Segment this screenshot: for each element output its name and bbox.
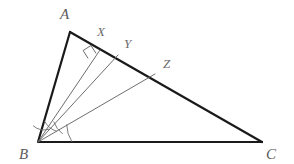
angle-arc-zbc (67, 124, 72, 142)
geometry-figure: A B C X Y Z (0, 0, 294, 164)
triangle-outline (38, 32, 262, 142)
point-label-y: Y (124, 36, 133, 51)
cevians-from-b (38, 50, 155, 142)
vertex-label-a: A (59, 6, 70, 22)
point-label-x: X (96, 24, 106, 39)
side-ab (38, 32, 70, 142)
cevian-bx (38, 50, 100, 142)
vertex-label-b: B (19, 146, 28, 162)
right-angle-at-x (83, 46, 96, 59)
side-ac (70, 32, 262, 142)
right-angle-square (83, 46, 96, 59)
vertex-label-c: C (266, 146, 277, 162)
point-label-z: Z (163, 56, 171, 71)
triangle-diagram-svg: A B C X Y Z (0, 0, 294, 164)
